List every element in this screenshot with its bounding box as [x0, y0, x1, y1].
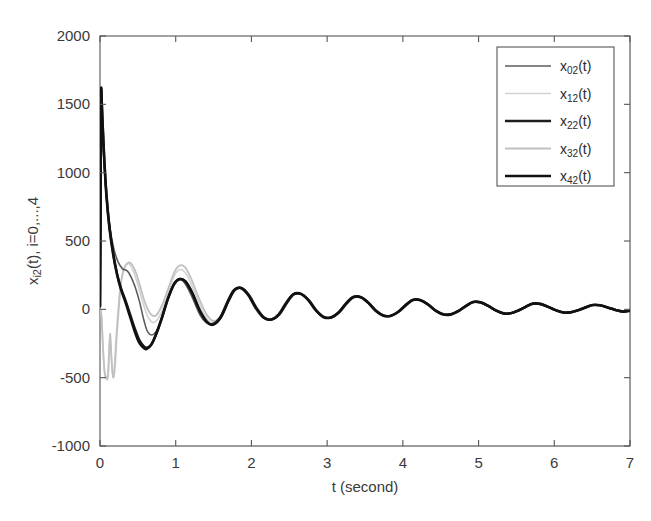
y-tick-label: -500	[60, 369, 90, 386]
y-tick-label: -1000	[52, 437, 90, 454]
legend-label-subscript: 12	[567, 92, 579, 103]
y-tick-label: 1000	[57, 164, 90, 181]
legend[interactable]: x02(t)x12(t)x22(t)x32(t)x42(t)	[497, 47, 614, 186]
x-tick-label: 2	[247, 454, 255, 471]
legend-label-subscript: 42	[567, 175, 579, 186]
x-tick-label: 3	[323, 454, 331, 471]
legend-label-rest: (t)	[578, 58, 591, 74]
y-tick-label: 2000	[57, 27, 90, 44]
x-tick-label: 6	[550, 454, 558, 471]
legend-label-base: x	[560, 58, 567, 74]
legend-label-rest: (t)	[578, 86, 591, 102]
y-tick-label: 0	[82, 300, 90, 317]
legend-label-subscript: 22	[567, 120, 579, 131]
legend-label-subscript: 32	[567, 147, 579, 158]
legend-label-base: x	[560, 86, 567, 102]
legend-label-base: x	[560, 168, 567, 184]
y-axis-label-subscript: i2	[31, 269, 43, 278]
legend-label-base: x	[560, 141, 567, 157]
x-tick-label: 5	[474, 454, 482, 471]
legend-label-subscript: 02	[567, 65, 579, 76]
x-tick-label: 1	[172, 454, 180, 471]
legend-label-rest: (t)	[578, 113, 591, 129]
legend-label-rest: (t)	[578, 168, 591, 184]
y-axis-label-rest: (t), i=0,...,4	[24, 197, 41, 269]
x-tick-label: 7	[626, 454, 634, 471]
x-axis-label: t (second)	[332, 478, 399, 495]
y-tick-label: 1500	[57, 95, 90, 112]
line-chart: 01234567 -1000-5000500100015002000 t (se…	[0, 0, 651, 521]
x-tick-label: 0	[96, 454, 104, 471]
x-tick-label: 4	[399, 454, 407, 471]
legend-label-base: x	[560, 113, 567, 129]
legend-box	[497, 47, 614, 186]
y-tick-label: 500	[65, 232, 90, 249]
chart-figure: 01234567 -1000-5000500100015002000 t (se…	[0, 0, 651, 521]
legend-label-rest: (t)	[578, 141, 591, 157]
